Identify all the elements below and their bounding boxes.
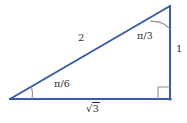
hypotenuse-line bbox=[10, 6, 170, 99]
angle-top-label: π/3 bbox=[137, 31, 153, 41]
radical-expression: √3 bbox=[86, 104, 100, 114]
radical-argument: 3 bbox=[92, 102, 100, 114]
vertical-leg-label: 1 bbox=[176, 44, 183, 54]
right-angle-marker-icon bbox=[158, 87, 170, 99]
angle-arc-left-icon bbox=[32, 87, 33, 99]
angle-arc-top-icon bbox=[150, 21, 170, 29]
triangle-outline bbox=[10, 6, 171, 100]
hypotenuse-label: 2 bbox=[78, 33, 85, 43]
angle-left-label: π/6 bbox=[54, 79, 70, 89]
base-leg-label: √3 bbox=[86, 104, 100, 114]
triangle-figure: 2 1 √3 π/3 π/6 bbox=[0, 0, 187, 123]
